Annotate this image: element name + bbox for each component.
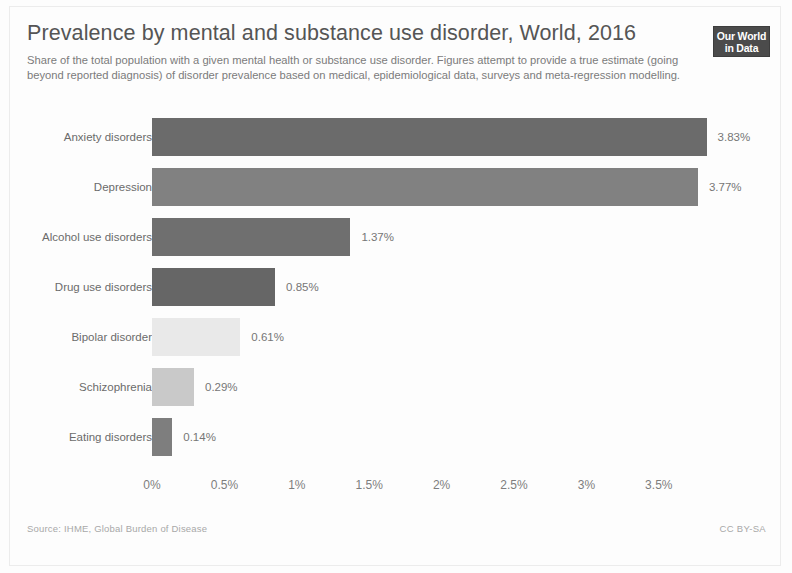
bar-row: Schizophrenia0.29% [0, 362, 792, 412]
bar[interactable] [152, 118, 707, 156]
bar-track: 0.14% [152, 418, 782, 456]
bar-value-label: 3.77% [709, 181, 742, 193]
bar-category-label: Alcohol use disorders [0, 231, 152, 243]
bar-track: 1.37% [152, 218, 782, 256]
bar[interactable] [152, 268, 275, 306]
bar-category-label: Depression [0, 181, 152, 193]
bar-value-label: 0.29% [205, 381, 238, 393]
chart-subtitle: Share of the total population with a giv… [27, 53, 692, 84]
page-title: Prevalence by mental and substance use d… [27, 22, 765, 46]
bar-value-label: 3.83% [718, 131, 751, 143]
bar-category-label: Bipolar disorder [0, 331, 152, 343]
chart-page: Prevalence by mental and substance use d… [0, 0, 792, 573]
bar-row: Depression3.77% [0, 162, 792, 212]
bar-track: 0.85% [152, 268, 782, 306]
x-axis-tick-label: 2% [433, 478, 450, 492]
bar-chart-plot: Anxiety disorders3.83%Depression3.77%Alc… [0, 112, 792, 472]
bar[interactable] [152, 218, 350, 256]
bar[interactable] [152, 168, 698, 206]
bar[interactable] [152, 418, 172, 456]
bar[interactable] [152, 318, 240, 356]
bar-track: 0.29% [152, 368, 782, 406]
bar-category-label: Anxiety disorders [0, 131, 152, 143]
chart-header: Prevalence by mental and substance use d… [27, 22, 765, 84]
x-axis-tick-label: 0.5% [211, 478, 238, 492]
bar-row: Anxiety disorders3.83% [0, 112, 792, 162]
source-note: Source: IHME, Global Burden of Disease [27, 523, 207, 534]
bar-row: Eating disorders0.14% [0, 412, 792, 462]
bar-track: 3.77% [152, 168, 782, 206]
x-axis-tick-label: 1% [288, 478, 305, 492]
x-axis-tick-label: 3.5% [645, 478, 672, 492]
logo-line-1: Our World [714, 31, 769, 43]
bar-category-label: Drug use disorders [0, 281, 152, 293]
bar-category-label: Schizophrenia [0, 381, 152, 393]
bar-row: Bipolar disorder0.61% [0, 312, 792, 362]
license-note[interactable]: CC BY-SA [720, 523, 766, 534]
our-world-in-data-logo[interactable]: Our World in Data [713, 26, 770, 57]
x-axis-tick-label: 2.5% [500, 478, 527, 492]
bar-value-label: 0.14% [183, 431, 216, 443]
bar-track: 3.83% [152, 118, 782, 156]
x-axis-tick-label: 1.5% [356, 478, 383, 492]
bar-track: 0.61% [152, 318, 782, 356]
logo-line-2: in Data [714, 43, 769, 55]
bar[interactable] [152, 368, 194, 406]
bar-value-label: 1.37% [361, 231, 394, 243]
bar-value-label: 0.85% [286, 281, 319, 293]
bar-row: Alcohol use disorders1.37% [0, 212, 792, 262]
x-axis-tick-label: 3% [578, 478, 595, 492]
x-axis: 0%0.5%1%1.5%2%2.5%3%3.5% [0, 478, 792, 498]
bar-row: Drug use disorders0.85% [0, 262, 792, 312]
bar-category-label: Eating disorders [0, 431, 152, 443]
bar-value-label: 0.61% [251, 331, 284, 343]
x-axis-tick-label: 0% [143, 478, 160, 492]
